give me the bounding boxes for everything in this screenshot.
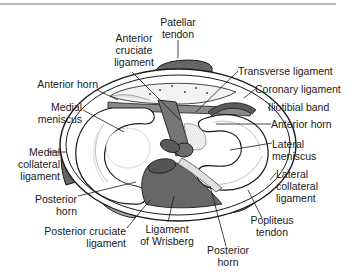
label-patellar-tendon: Patellar tendon [155, 16, 201, 40]
label-line: Coronary ligament [255, 83, 341, 95]
label-line: collateral [0, 158, 60, 170]
label-line: meniscus [20, 113, 82, 125]
label-medial-meniscus: Medial meniscus [20, 101, 82, 125]
label-line: Medial [20, 101, 82, 113]
label-line: Iliotibial band [268, 101, 329, 113]
label-anterior-horn-lateral: Anterior horn [271, 118, 351, 130]
label-line: tendon [248, 226, 296, 238]
label-popliteus-tendon: Popliteus tendon [248, 214, 296, 238]
label-posterior-horn-lateral: Posterior horn [206, 244, 250, 268]
label-line: Transverse ligament [238, 65, 333, 77]
label-line: Anterior horn [37, 78, 98, 90]
label-lateral-collateral-ligament: Lateral collateral ligament [276, 168, 336, 204]
label-coronary-ligament: Coronary ligament [255, 83, 354, 95]
label-line: Popliteus [248, 214, 296, 226]
label-line: tendon [155, 28, 201, 40]
label-line: horn [206, 256, 250, 268]
label-line: horn [20, 205, 77, 217]
label-line: Medial [0, 146, 60, 158]
label-line: cruciate [108, 44, 160, 56]
label-line: Anterior horn [271, 118, 332, 130]
label-line: of Wrisberg [140, 235, 194, 247]
label-line: ligament [108, 56, 160, 68]
label-line: ligament [40, 237, 126, 249]
label-posterior-horn-medial: Posterior horn [20, 193, 77, 217]
label-lateral-meniscus: Lateral meniscus [272, 138, 332, 162]
label-line: ligament [0, 170, 60, 182]
label-line: Posterior cruciate [40, 225, 126, 237]
label-line: Posterior [206, 244, 250, 256]
label-anterior-cruciate-ligament: Anterior cruciate ligament [108, 32, 160, 68]
label-line: Ligament [140, 223, 194, 235]
label-line: Lateral [272, 138, 332, 150]
label-line: Posterior [20, 193, 77, 205]
label-line: Lateral [276, 168, 336, 180]
label-ligament-of-wrisberg: Ligament of Wrisberg [140, 223, 194, 247]
label-line: Anterior [108, 32, 160, 44]
label-medial-collateral-ligament: Medial collateral ligament [0, 146, 60, 182]
label-line: ligament [276, 192, 336, 204]
label-line: meniscus [272, 150, 332, 162]
label-iliotibial-band: Iliotibial band [268, 101, 352, 113]
label-transverse-ligament: Transverse ligament [238, 65, 350, 77]
label-posterior-cruciate-ligament: Posterior cruciate ligament [40, 225, 126, 249]
label-line: collateral [276, 180, 336, 192]
label-line: Patellar [155, 16, 201, 28]
label-anterior-horn-medial: Anterior horn [20, 78, 98, 90]
